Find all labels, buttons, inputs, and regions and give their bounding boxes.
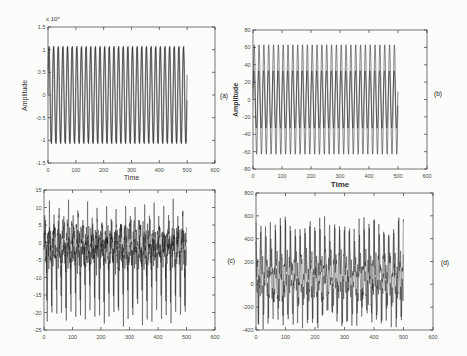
y-tick-label: 200	[244, 259, 253, 265]
x-tick-label: 300	[340, 334, 349, 340]
subplot-c: 0100200300400500600151050-5-10-15-20-25 …	[44, 190, 215, 330]
x-tick-label: 100	[68, 334, 77, 340]
x-tick-label: 200	[306, 173, 315, 179]
x-tick-label: 400	[369, 334, 378, 340]
x-tick-label: 0	[254, 334, 257, 340]
x-tick-label: 500	[182, 334, 191, 340]
x-tick-label: 600	[210, 334, 219, 340]
x-tick-label: 200	[310, 334, 319, 340]
y-tick-label: -1	[41, 137, 46, 143]
plot-canvas: 01002003004005006001.510.50-0.5-1-1.5	[48, 27, 215, 163]
x-tick-label: 200	[99, 167, 108, 173]
x-tick-label: 0	[46, 167, 49, 173]
y-tick-label: 20	[244, 79, 250, 85]
x-tick-label: 100	[277, 173, 286, 179]
subplot-a: 01002003004005006001.510.50-0.5-1-1.5 x …	[48, 27, 215, 163]
y-tick-label: 800	[244, 190, 253, 196]
y-tick-label: 0	[42, 92, 45, 98]
y-tick-label: 15	[35, 187, 41, 193]
y-tick-label: -400	[242, 327, 253, 333]
y-tick-label: -20	[34, 310, 42, 316]
subplot-annotation-d: (d)	[441, 258, 449, 265]
y-tick-label: 0.5	[38, 69, 46, 75]
y-tick-label: -25	[34, 327, 42, 333]
x-tick-label: 300	[127, 167, 136, 173]
x-tick-label: 100	[71, 167, 80, 173]
x-tick-label: 400	[364, 173, 373, 179]
x-tick-label: 500	[393, 173, 402, 179]
y-axis-label-b: Amplitude	[230, 30, 240, 169]
y-tick-label: -1.5	[36, 160, 45, 166]
y-axis-label-c	[15, 190, 25, 330]
y-tick-label: -0.5	[36, 115, 45, 121]
x-tick-label: 0	[251, 173, 254, 179]
plot-canvas: 0100200300400500600151050-5-10-15-20-25	[44, 190, 215, 330]
x-axis-label-b: Time	[253, 180, 427, 189]
subplot-annotation-b: (b)	[434, 89, 442, 96]
subplot-d: 01002003004005006008006004002000-200-400…	[256, 193, 433, 330]
x-tick-label: 300	[125, 334, 134, 340]
x-tick-label: 400	[153, 334, 162, 340]
subplot-b: 0100200300400500600806040200-20-40-60-80…	[253, 30, 427, 169]
plot-canvas: 0100200300400500600806040200-20-40-60-80	[253, 30, 427, 169]
x-tick-label: 600	[210, 167, 219, 173]
y-tick-label: 1.5	[38, 24, 46, 30]
x-tick-label: 600	[422, 173, 431, 179]
y-axis-label-d	[227, 193, 237, 330]
y-tick-label: -10	[34, 275, 42, 281]
y-tick-label: -5	[37, 257, 42, 263]
y-tick-label: 80	[244, 27, 250, 33]
x-tick-label: 500	[399, 334, 408, 340]
figure-canvas: 01002003004005006001.510.50-0.5-1-1.5 x …	[0, 0, 467, 356]
x-tick-label: 600	[428, 334, 437, 340]
y-tick-label: 40	[244, 62, 250, 68]
y-tick-label: -20	[243, 114, 251, 120]
y-tick-label: -60	[243, 149, 251, 155]
y-tick-label: -15	[34, 292, 42, 298]
y-tick-label: -80	[243, 166, 251, 172]
y-tick-label: 600	[244, 213, 253, 219]
y-tick-label: 5	[38, 222, 41, 228]
y-tick-label: 0	[38, 240, 41, 246]
y-tick-label: -200	[242, 304, 253, 310]
y-tick-label: 1	[42, 47, 45, 53]
x-tick-label: 200	[96, 334, 105, 340]
subplot-annotation-a: (a)	[220, 92, 228, 99]
x-tick-label: 0	[42, 334, 45, 340]
y-tick-label: -40	[243, 131, 251, 137]
plot-canvas: 01002003004005006008006004002000-200-400	[256, 193, 433, 330]
y-tick-label: 10	[35, 205, 41, 211]
x-tick-label: 100	[281, 334, 290, 340]
x-tick-label: 500	[183, 167, 192, 173]
y-axis-label-a: Amplitude	[19, 27, 29, 163]
x-tick-label: 300	[335, 173, 344, 179]
y-tick-label: 0	[247, 97, 250, 103]
y-tick-label: 400	[244, 236, 253, 242]
y-tick-label: 60	[244, 44, 250, 50]
y-axis-multiplier: x 10⁴	[46, 16, 60, 22]
x-axis-label-a: Time	[48, 174, 215, 181]
x-tick-label: 400	[155, 167, 164, 173]
y-tick-label: 0	[250, 281, 253, 287]
